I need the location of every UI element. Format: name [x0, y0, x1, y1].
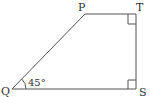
vertex-label-p: P	[78, 1, 86, 14]
angle-label-q: 45°	[28, 77, 46, 88]
right-angle-marker-s	[128, 80, 136, 89]
trapezoid-diagram: P T S Q 45°	[0, 0, 150, 97]
segment-qp	[12, 14, 85, 89]
angle-arc-q	[22, 79, 26, 89]
right-angle-marker-t	[128, 14, 136, 24]
vertex-label-q: Q	[1, 85, 10, 97]
vertex-label-s: S	[139, 86, 147, 97]
vertex-label-t: T	[136, 1, 144, 14]
